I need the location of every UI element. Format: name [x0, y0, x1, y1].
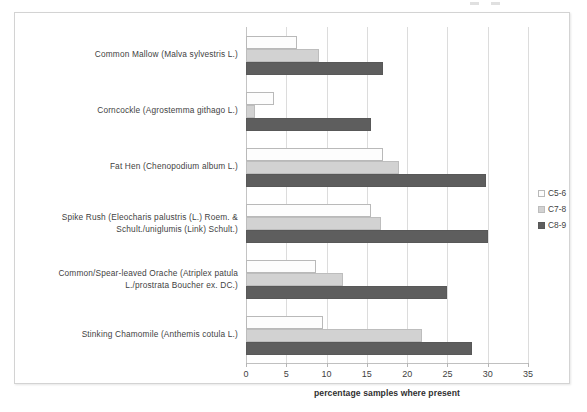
- bar-C5-6: [246, 316, 323, 329]
- axis-tick-label-10: 10: [312, 369, 342, 379]
- category-label: Fat Hen (Chenopodium album L.): [28, 161, 238, 173]
- axis-tick-label-15: 15: [352, 369, 382, 379]
- legend-item-C8-9[interactable]: C8-9: [538, 217, 582, 233]
- category-row: Common/Spear-leaved Orache (Atriplex pat…: [246, 251, 528, 307]
- legend-label: C5-6: [548, 188, 566, 198]
- category-row: Stinking Chamomile (Anthemis cotula L.): [246, 307, 528, 363]
- legend-swatch-icon: [538, 190, 545, 197]
- axis-tick-label-30: 30: [473, 369, 503, 379]
- axis-tick-5: [286, 363, 287, 367]
- legend-label: C7-8: [548, 204, 566, 214]
- category-row: Common Mallow (Malva sylvestris L.): [246, 27, 528, 83]
- axis-tick-30: [488, 363, 489, 367]
- legend-swatch-icon: [538, 206, 545, 213]
- bar-C5-6: [246, 148, 383, 161]
- bar-C8-9: [246, 342, 472, 355]
- bar-C7-8: [246, 273, 343, 286]
- scan-artifact: [470, 2, 510, 7]
- bar-C8-9: [246, 118, 371, 131]
- value-axis: 05101520253035: [246, 363, 528, 364]
- gridline-35: [528, 27, 529, 363]
- category-label: Common Mallow (Malva sylvestris L.): [28, 49, 238, 61]
- category-label: Spike Rush (Eleocharis palustris (L.) Ro…: [28, 212, 238, 235]
- plot-area: Common Mallow (Malva sylvestris L.)Cornc…: [246, 27, 528, 363]
- bar-C7-8: [246, 217, 381, 230]
- category-row: Fat Hen (Chenopodium album L.): [246, 139, 528, 195]
- category-label: Corncockle (Agrostemma githago L.): [28, 105, 238, 117]
- bar-C7-8: [246, 329, 422, 342]
- chart-frame: Common Mallow (Malva sylvestris L.)Cornc…: [14, 12, 570, 384]
- legend-label: C8-9: [548, 220, 566, 230]
- bar-C8-9: [246, 62, 383, 75]
- legend-item-C5-6[interactable]: C5-6: [538, 185, 582, 201]
- axis-tick-label-0: 0: [231, 369, 261, 379]
- scan-artifact-mark-right: [491, 2, 500, 5]
- bar-C5-6: [246, 36, 297, 49]
- category-label: Stinking Chamomile (Anthemis cotula L.): [28, 329, 238, 341]
- legend-swatch-icon: [538, 222, 545, 229]
- bar-C7-8: [246, 161, 399, 174]
- bar-C8-9: [246, 174, 486, 187]
- category-row: Spike Rush (Eleocharis palustris (L.) Ro…: [246, 195, 528, 251]
- category-row: Corncockle (Agrostemma githago L.): [246, 83, 528, 139]
- scan-artifact-mark-left: [470, 2, 479, 5]
- chart-legend: C5-6C7-8C8-9: [538, 185, 582, 233]
- axis-tick-label-25: 25: [432, 369, 462, 379]
- axis-tick-20: [407, 363, 408, 367]
- bar-C7-8: [246, 105, 255, 118]
- legend-item-C7-8[interactable]: C7-8: [538, 201, 582, 217]
- axis-tick-25: [447, 363, 448, 367]
- bar-C7-8: [246, 49, 319, 62]
- axis-tick-label-5: 5: [271, 369, 301, 379]
- axis-tick-label-35: 35: [513, 369, 543, 379]
- axis-tick-10: [327, 363, 328, 367]
- x-axis-title: percentage samples where present: [246, 388, 528, 398]
- axis-tick-15: [367, 363, 368, 367]
- bar-C8-9: [246, 286, 447, 299]
- axis-tick-0: [246, 363, 247, 367]
- category-label: Common/Spear-leaved Orache (Atriplex pat…: [28, 268, 238, 291]
- axis-tick-35: [528, 363, 529, 367]
- bar-C8-9: [246, 230, 488, 243]
- bar-C5-6: [246, 92, 274, 105]
- bar-C5-6: [246, 260, 316, 273]
- axis-tick-label-20: 20: [392, 369, 422, 379]
- bar-C5-6: [246, 204, 371, 217]
